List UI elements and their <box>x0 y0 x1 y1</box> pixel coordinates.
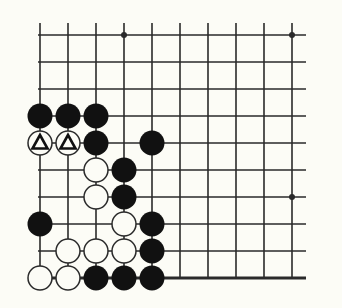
go-board <box>0 0 342 308</box>
black-stone <box>140 212 165 237</box>
white-stone <box>112 212 136 236</box>
white-stone <box>56 239 80 263</box>
white-stone <box>28 266 52 290</box>
white-stone <box>84 239 108 263</box>
white-stone <box>84 185 108 209</box>
black-stone <box>140 131 165 156</box>
white-stone <box>84 158 108 182</box>
black-stone <box>84 266 109 291</box>
star-point <box>289 194 295 200</box>
star-point <box>289 32 295 38</box>
black-stone <box>84 104 109 129</box>
black-stone <box>84 131 109 156</box>
black-stone <box>112 185 137 210</box>
black-stone <box>112 158 137 183</box>
star-point <box>121 32 127 38</box>
black-stone <box>28 104 53 129</box>
black-stone <box>28 212 53 237</box>
black-stone <box>56 104 81 129</box>
white-stone <box>112 239 136 263</box>
black-stone <box>140 266 165 291</box>
white-stone <box>56 266 80 290</box>
black-stone <box>140 239 165 264</box>
black-stone <box>112 266 137 291</box>
